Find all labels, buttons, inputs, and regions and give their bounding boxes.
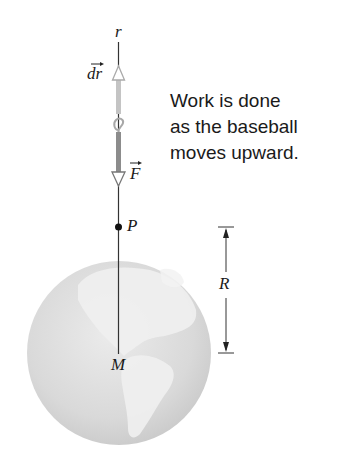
figure-caption: Work is done as the baseball moves upwar… <box>170 88 299 166</box>
force-arrow <box>112 132 125 186</box>
label-r-axis: r <box>115 22 122 42</box>
diagram-canvas: r dr F P R M Work is done as the basebal… <box>0 0 347 471</box>
point-p <box>115 224 122 231</box>
label-point-p: P <box>127 216 137 236</box>
caption-line-1: Work is done <box>170 88 299 114</box>
label-radius-r: R <box>219 274 229 294</box>
caption-line-3: moves upward. <box>170 140 299 166</box>
diagram-svg <box>0 0 347 471</box>
label-displacement-dr: dr <box>87 64 102 84</box>
displacement-arrow <box>113 66 125 114</box>
label-mass-m: M <box>111 355 125 375</box>
caption-line-2: as the baseball <box>170 114 299 140</box>
label-force-f: F <box>130 164 140 184</box>
